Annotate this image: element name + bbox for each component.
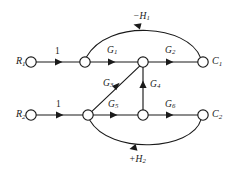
edge-n4-to-n2-vertical [139,67,146,110]
signal-flow-graph-figure: R1 C1 R2 C2 1 G1 G2 −H1 1 G5 G6 G3 G4 +H… [0,0,235,176]
edge-n4-to-c2 [148,111,198,118]
node-summing-junction-top [80,57,90,67]
node-junction-top-center [138,57,148,67]
edge-n1-to-n2 [90,58,138,65]
arrow-head-n1-n2 [108,58,116,65]
arrow-head-r1-n1 [55,58,63,65]
edge-c2-to-n3-feedback-arc [90,120,201,151]
arrow-head-n2-c1 [166,58,174,65]
edge-n2-to-c1 [148,58,198,65]
gain-label-r1-n1: 1 [55,47,60,57]
signal-flow-graph-canvas [0,0,235,176]
node-c2 [198,110,208,120]
arrow-head-n3-n4 [110,111,118,118]
node-junction-bottom-center [138,110,148,120]
gain-label-g3: G3 [103,79,113,89]
terminal-label-r2: R2 [16,109,26,121]
gain-label-plus-h2: +H2 [129,155,146,165]
arrow-head-c1-n1 [134,23,142,29]
edge-c1-to-n1-feedback-arc [86,23,200,57]
arrow-head-n4-n2 [139,81,146,89]
node-summing-junction-bottom [83,110,93,120]
gain-label-g5: G5 [108,100,118,110]
arrow-head-r2-n3 [56,111,64,118]
terminal-label-c1: C1 [212,56,222,68]
node-c1 [198,57,208,67]
node-r2 [26,110,36,120]
terminal-label-c2: C2 [212,109,222,121]
terminal-label-r1: R1 [16,56,26,68]
gain-label-g6: G6 [165,100,175,110]
arrow-head-c2-n3 [130,144,138,151]
edge-n3-to-n4 [93,111,138,118]
arrow-head-n4-c2 [166,111,174,118]
gain-label-g1: G1 [107,46,117,56]
node-r1 [26,57,36,67]
edge-r2-to-n3 [36,111,83,118]
gain-label-r2-n3: 1 [56,100,61,110]
gain-label-g2: G2 [165,46,175,56]
gain-label-g4: G4 [150,80,160,90]
edge-r1-to-n1 [36,58,80,65]
gain-label-minus-h1: −H1 [133,12,150,22]
